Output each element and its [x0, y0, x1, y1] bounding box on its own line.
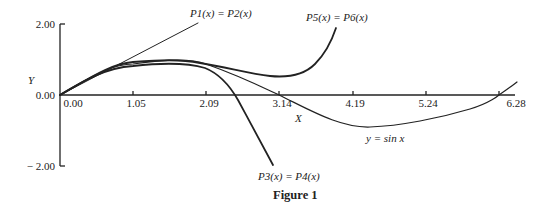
- p1-p2-line: [60, 23, 198, 95]
- y-tick-label-zero: 0.00: [36, 89, 56, 101]
- x-tick-label: 4.19: [345, 97, 365, 109]
- y-axis-label: Y: [28, 74, 36, 86]
- x-tick-label: 1.05: [126, 97, 146, 109]
- sin-curve: [60, 60, 517, 127]
- p1-p2-annotation: P1(x) = P2(x): [189, 7, 252, 20]
- sin-annotation: y = sin x: [365, 132, 404, 144]
- x-tick-label: 6.28: [506, 97, 526, 109]
- y-tick-label-bottom: − 2.00: [27, 160, 56, 172]
- p3-p4-annotation: P3(x) = P4(x): [257, 170, 320, 183]
- figure-caption: Figure 1: [273, 188, 318, 202]
- x-tick-label: 3.14: [272, 97, 292, 109]
- p5-p6-annotation: P5(x) = P6(x): [305, 11, 368, 24]
- x-axis-label: X: [294, 112, 303, 124]
- x-tick-label: 0.00: [63, 97, 83, 109]
- taylor-polynomial-chart: 2.00 0.00 − 2.00 0.00 1.05 2.09 3.14 4.1…: [0, 0, 542, 204]
- x-tick-label: 2.09: [199, 97, 219, 109]
- x-tick-label: 5.24: [418, 97, 438, 109]
- axes: [60, 24, 515, 166]
- y-tick-label-top: 2.00: [36, 18, 56, 30]
